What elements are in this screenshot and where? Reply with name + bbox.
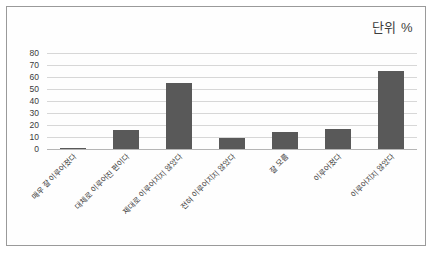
x-tick-label: 이루어졌다 (313, 153, 344, 184)
chart-frame: 단위 % 01020304050607080 매우 잘 이루어졌다대체로 이루어… (6, 6, 426, 246)
y-tick-label: 50 (30, 85, 39, 94)
bar (325, 129, 351, 149)
x-label-slot: 매우 잘 이루어졌다 (47, 151, 100, 247)
bar-slot (311, 53, 364, 149)
bar-slot (364, 53, 417, 149)
bar (113, 130, 139, 149)
bar-slot (153, 53, 206, 149)
y-tick-label: 10 (30, 133, 39, 142)
y-axis: 01020304050607080 (7, 53, 43, 149)
y-tick-label: 40 (30, 97, 39, 106)
bar (272, 132, 298, 149)
x-label-slot: 이루어지지 않았다 (364, 151, 417, 247)
y-tick-label: 20 (30, 121, 39, 130)
y-tick-label: 60 (30, 73, 39, 82)
bar-slot (258, 53, 311, 149)
y-tick-label: 70 (30, 61, 39, 70)
gridline-0 (47, 149, 417, 150)
unit-annotation: 단위 % (372, 17, 413, 36)
x-axis-labels: 매우 잘 이루어졌다대체로 이루어진 편이다제대로 이루어지지 않았다전혀 이루… (47, 151, 417, 247)
bar-slot (47, 53, 100, 149)
y-tick-label: 80 (30, 49, 39, 58)
y-tick-label: 30 (30, 109, 39, 118)
bar (60, 148, 86, 149)
plot-area (47, 53, 417, 149)
bar-slot (100, 53, 153, 149)
bar-slot (206, 53, 259, 149)
x-label-slot: 전혀 이루어지지 않았다 (206, 151, 259, 247)
bar-series (47, 53, 417, 149)
bar (378, 71, 404, 149)
x-tick-label: 매우 잘 이루어졌다 (31, 153, 79, 201)
x-label-slot: 잘 모름 (258, 151, 311, 247)
x-tick-label: 잘 모름 (269, 153, 291, 175)
bar (166, 83, 192, 149)
y-tick-label: 0 (34, 145, 39, 154)
bar (219, 138, 245, 149)
